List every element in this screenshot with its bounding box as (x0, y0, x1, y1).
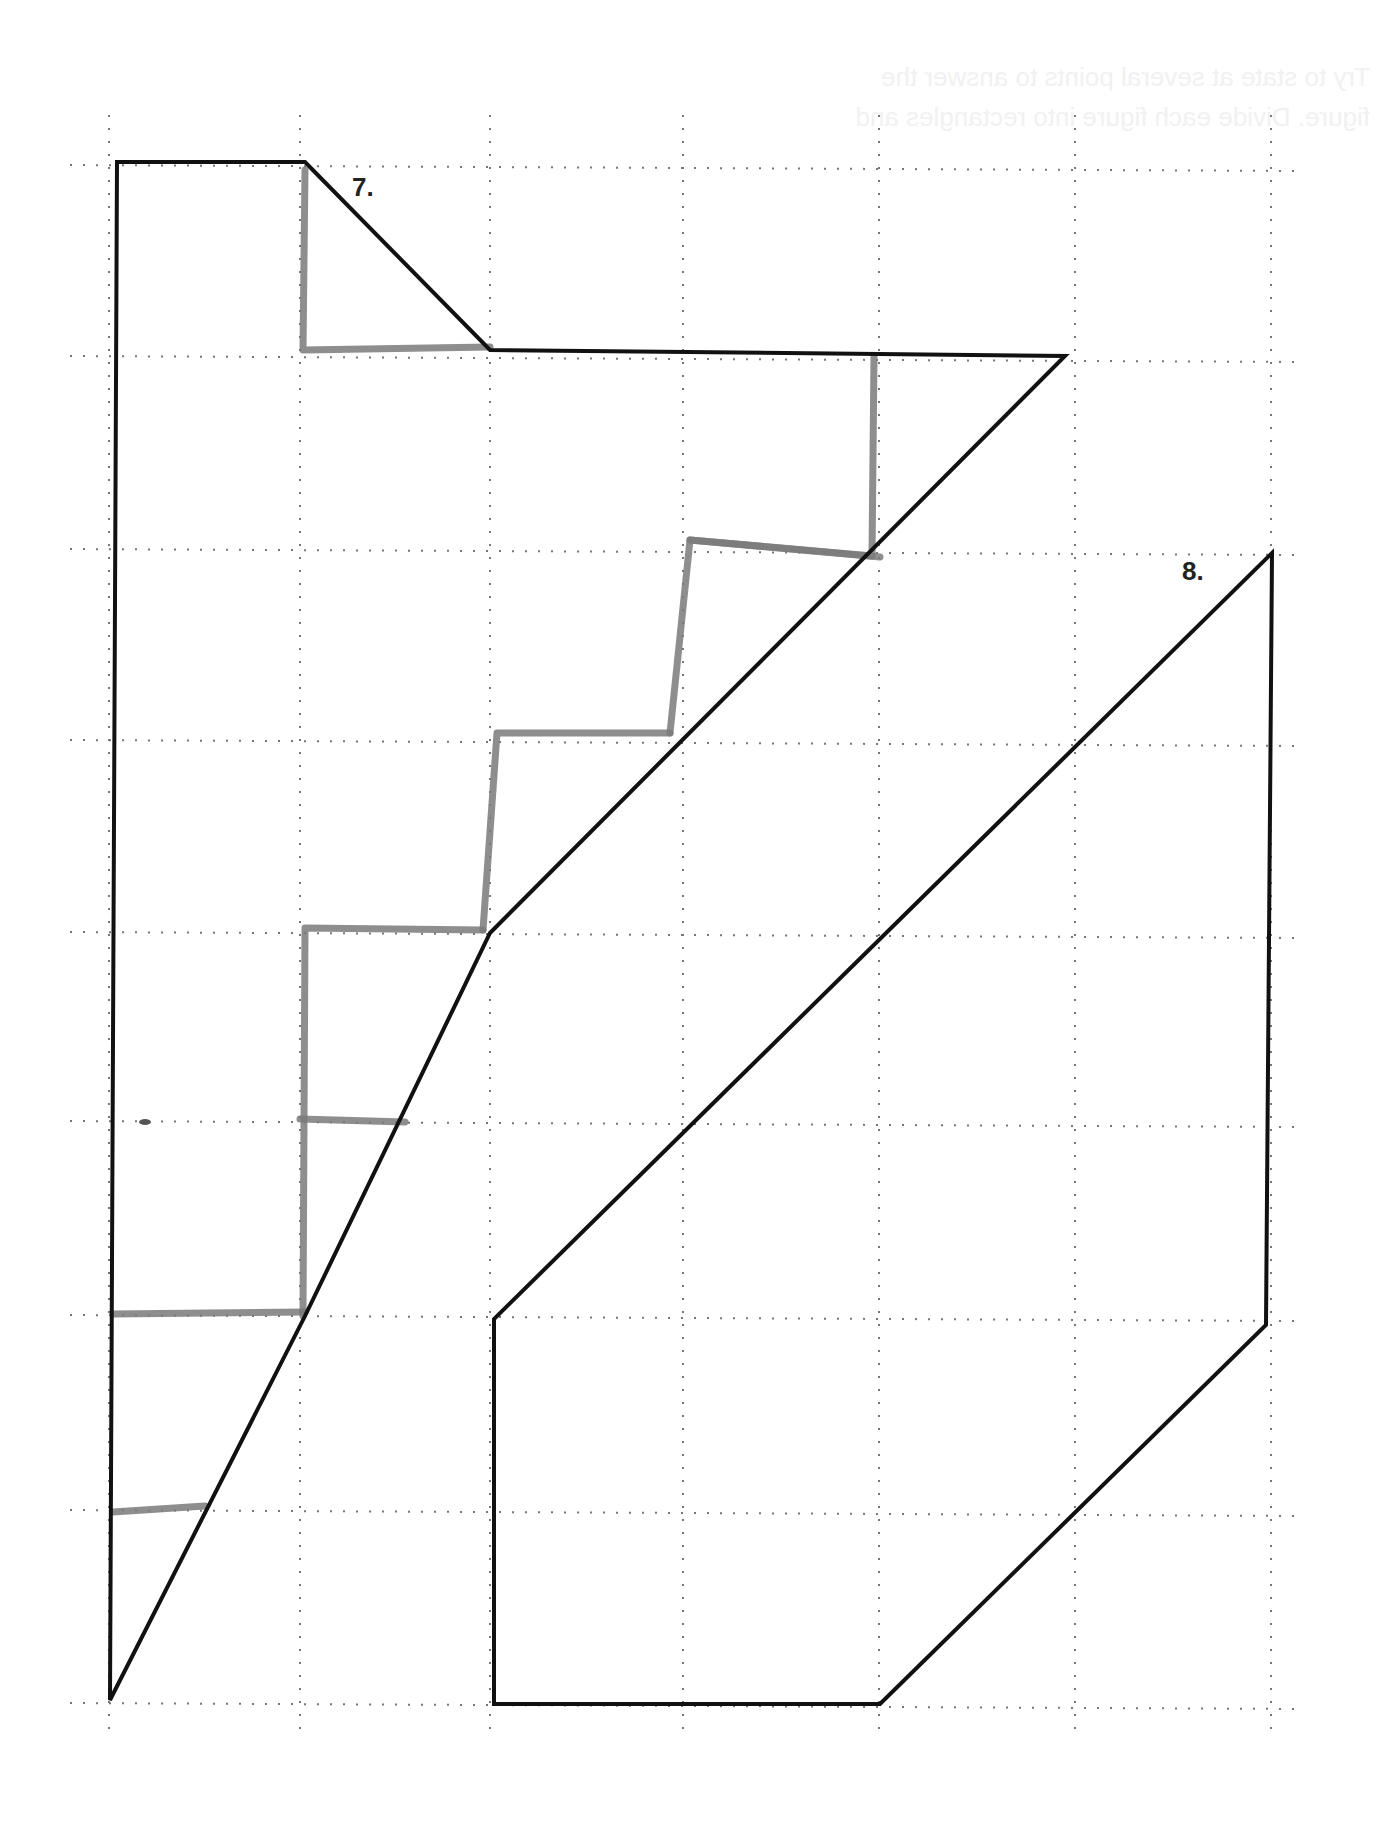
figure-7-marker-stroke-2 (690, 540, 880, 557)
figure-outlines (110, 162, 1272, 1704)
figure-7-label: 7. (352, 172, 374, 203)
dotted-grid (70, 115, 1300, 1735)
highlighter-strokes (113, 170, 880, 1512)
figure-7-outline (110, 162, 1065, 1700)
figure-7-marker-stroke-3 (483, 733, 670, 930)
stray-ink-mark (139, 1119, 151, 1125)
grid-row-7 (70, 1510, 1300, 1516)
grid-row-0 (70, 165, 1300, 171)
grid-row-1 (70, 356, 1300, 362)
figure-8-outline (494, 553, 1272, 1704)
figure-7-marker-stroke-6 (113, 1312, 305, 1314)
grid-row-5 (70, 1121, 1300, 1127)
worksheet-page: Try to state at several points to answer… (0, 0, 1387, 1845)
grid-row-4 (70, 932, 1300, 938)
figure-7-marker-stroke-7 (113, 1506, 205, 1512)
grid-row-2 (70, 549, 1300, 555)
figure-7-marker-stroke-5 (300, 1119, 405, 1122)
geometry-canvas (0, 0, 1387, 1845)
grid-row-3 (70, 740, 1300, 746)
figure-8-label: 8. (1182, 556, 1204, 587)
